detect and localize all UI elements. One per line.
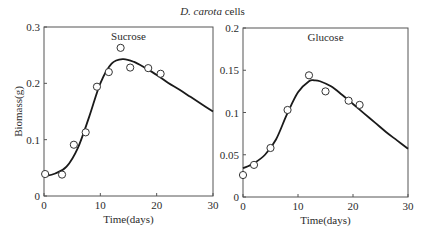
y-tick-label: 0.05 [220,149,240,161]
x-tick-label: 30 [208,199,220,211]
data-point [345,97,352,104]
x-tick-label: 30 [403,200,415,212]
data-point [82,129,89,136]
data-point [105,68,112,75]
data-point [356,101,363,108]
x-tick-label: 0 [240,200,246,212]
model-curve [44,59,213,176]
y-tick-label: 0.1 [26,134,40,146]
data-point [70,141,77,148]
chart-panel-glucose: 010203000.050.10.150.2GlucoseTime(days) [220,22,414,227]
y-tick-label: 0.2 [26,77,40,89]
data-point [250,161,257,168]
plot-frame [243,28,408,197]
panel-title: Glucose [307,31,343,43]
data-point [117,44,124,51]
y-tick-label: 0.2 [225,22,239,34]
data-point [127,64,134,71]
y-tick-label: 0 [234,191,240,203]
data-point [58,171,65,178]
y-tick-label: 0.1 [225,107,239,119]
chart-canvas: 010203000.10.20.3SucroseTime(days)Biomas… [0,0,425,238]
x-tick-label: 10 [95,199,107,211]
plot-frame [44,27,213,196]
data-point [239,171,246,178]
panel-title: Sucrose [111,30,146,42]
data-point [322,88,329,95]
x-axis-label: Time(days) [300,214,351,227]
x-tick-label: 20 [151,199,163,211]
data-point [305,72,312,79]
y-tick-label: 0 [35,190,41,202]
data-point [93,83,100,90]
y-tick-label: 0.15 [220,64,240,76]
data-point [284,106,291,113]
data-point [267,144,274,151]
chart-panel-sucrose: 010203000.10.20.3SucroseTime(days)Biomas… [12,21,219,226]
x-axis-label: Time(days) [103,213,154,226]
data-point [157,70,164,77]
x-tick-label: 0 [41,199,47,211]
x-tick-label: 20 [348,200,360,212]
data-point [42,170,49,177]
data-point [145,65,152,72]
y-axis-label: Biomass(g) [12,86,25,137]
y-tick-label: 0.3 [26,21,40,33]
x-tick-label: 10 [293,200,305,212]
